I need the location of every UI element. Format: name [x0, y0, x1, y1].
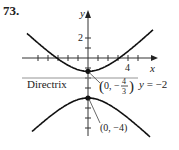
directrix-label: Directrix	[27, 78, 67, 90]
paren-close: )	[129, 78, 134, 95]
problem-number: 73.	[3, 3, 19, 18]
x-axis-label: x	[149, 62, 155, 74]
vertex-upper-prefix: 0, −	[104, 80, 120, 91]
upper-parabola	[27, 30, 153, 72]
y-tick-label-2: 2	[78, 32, 83, 43]
chart: 73. y x 2 4 Directrix y = −2 ( 0, − 4 3 …	[0, 0, 179, 150]
frac-den: 3	[122, 87, 126, 96]
x-axis-arrow	[151, 55, 158, 61]
directrix-eq-rest: = −2	[144, 78, 167, 90]
frac-num: 4	[122, 77, 126, 86]
vertex-lower-point	[85, 95, 90, 100]
vertex-lower-label: (0, −4)	[100, 122, 127, 134]
vertex-upper-label: ( 0, − 4 3 )	[99, 77, 134, 96]
directrix-equation: y = −2	[138, 78, 167, 90]
x-tick-label-4: 4	[125, 62, 130, 73]
y-axis-label: y	[79, 7, 85, 19]
y-axis-arrow	[85, 10, 91, 18]
vertex-lower-leader	[89, 99, 100, 123]
